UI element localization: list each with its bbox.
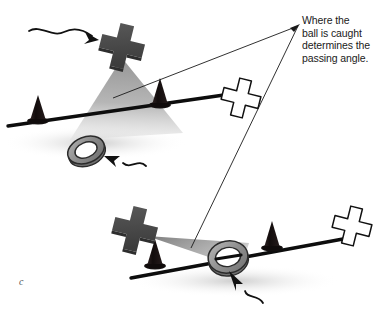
figure-root: Where the ball is caught determines the … [0, 0, 379, 313]
bottom-cone-left [144, 239, 166, 269]
bottom-cone-right [261, 221, 283, 251]
bottom-white-player-x [329, 203, 375, 249]
panel-label: c [19, 276, 23, 287]
bottom-scene [108, 202, 375, 303]
top-scene [3, 19, 264, 172]
annotation-line-3: determines the [302, 39, 378, 52]
annotation-line-4: passing angle. [302, 52, 378, 65]
top-dark-player-x [95, 19, 149, 75]
annotation-line-2: ball is caught [302, 27, 378, 40]
annotation-text: Where the ball is caught determines the … [302, 14, 378, 64]
leader-line-bottom [191, 26, 298, 248]
leader-arrowhead [290, 24, 300, 32]
top-cone-left [27, 95, 49, 124]
top-white-player-x [218, 75, 264, 121]
top-squiggle-arrow-to-player [29, 29, 99, 44]
annotation-line-1: Where the [302, 14, 378, 27]
leader-line-top [113, 26, 298, 98]
